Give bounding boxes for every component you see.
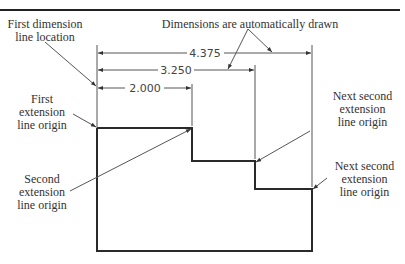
dimension-3250: 3.250 bbox=[98, 64, 254, 77]
leader-auto-drawn-1 bbox=[228, 29, 248, 69]
leader-next-second-2 bbox=[313, 178, 327, 189]
part-outline bbox=[97, 128, 312, 251]
leader-first-extension bbox=[73, 114, 96, 127]
label-first-extension-line-origin: First extension line origin bbox=[12, 93, 72, 132]
label-dimensions-auto-drawn: Dimensions are automatically drawn bbox=[150, 18, 350, 31]
dimension-text: 4.375 bbox=[189, 47, 221, 60]
dimension-2000: 2.000 bbox=[98, 82, 191, 95]
label-line: line origin bbox=[325, 116, 400, 129]
label-line: line origin bbox=[327, 186, 402, 199]
label-next-second-extension-1: Next second extension line origin bbox=[325, 90, 400, 129]
label-line: Dimensions are automatically drawn bbox=[150, 18, 350, 31]
label-line: line location bbox=[4, 31, 86, 44]
dimension-4375: 4.375 bbox=[98, 47, 311, 60]
label-first-dimension-line-location: First dimension line location bbox=[4, 18, 86, 44]
leader-next-second-1 bbox=[256, 131, 310, 162]
leader-auto-drawn-2 bbox=[248, 29, 272, 52]
label-line: line origin bbox=[12, 199, 72, 212]
dimension-text: 3.250 bbox=[160, 64, 192, 77]
label-line: line origin bbox=[12, 119, 72, 132]
leader-first-dimension bbox=[45, 42, 96, 86]
label-next-second-extension-2: Next second extension line origin bbox=[327, 160, 402, 199]
dimension-text: 2.000 bbox=[129, 82, 161, 95]
label-second-extension-line-origin: Second extension line origin bbox=[12, 173, 72, 212]
leader-second-extension bbox=[70, 129, 191, 191]
